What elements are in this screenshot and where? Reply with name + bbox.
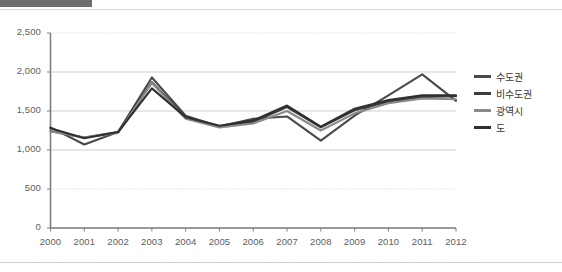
- x-tick-label: 2003: [135, 236, 169, 247]
- legend-label: 수도권: [496, 69, 523, 84]
- legend-label: 광역시: [496, 103, 523, 118]
- gridlines: [51, 33, 457, 228]
- axis-ticks: [47, 33, 456, 232]
- legend-color-swatch: [474, 75, 491, 78]
- legend-color-swatch: [474, 109, 491, 112]
- y-tick-label: 2,500: [1, 26, 41, 37]
- chart-page: 05001,0001,5002,0002,500 200020012002200…: [0, 0, 562, 272]
- x-tick-label: 2009: [338, 236, 372, 247]
- legend-item[interactable]: 광역시: [474, 102, 560, 118]
- x-tick-label: 2002: [101, 236, 135, 247]
- y-tick-label: 1,000: [1, 143, 41, 154]
- legend-item[interactable]: 비수도권: [474, 85, 560, 101]
- axis-lines: [51, 33, 457, 228]
- legend-item[interactable]: 도: [474, 119, 560, 135]
- x-tick-label: 2008: [304, 236, 338, 247]
- data-series-group: [51, 74, 457, 144]
- x-tick-label: 2010: [371, 236, 405, 247]
- x-tick-label: 2005: [202, 236, 236, 247]
- y-tick-label: 2,000: [1, 65, 41, 76]
- x-tick-label: 2006: [236, 236, 270, 247]
- y-tick-label: 0: [1, 221, 41, 232]
- bottom-divider: [0, 262, 562, 263]
- y-tick-label: 500: [1, 182, 41, 193]
- x-tick-label: 2012: [439, 236, 473, 247]
- line-chart: 05001,0001,5002,0002,500 200020012002200…: [0, 10, 562, 262]
- legend-color-swatch: [474, 92, 491, 95]
- legend-item[interactable]: 수도권: [474, 68, 560, 84]
- legend-label: 비수도권: [496, 86, 532, 101]
- legend-label: 도: [496, 120, 505, 135]
- x-tick-label: 2001: [67, 236, 101, 247]
- x-tick-label: 2007: [270, 236, 304, 247]
- legend-color-swatch: [474, 126, 491, 129]
- x-tick-label: 2000: [34, 236, 68, 247]
- chart-canvas: [0, 10, 562, 262]
- x-tick-label: 2004: [169, 236, 203, 247]
- x-tick-label: 2011: [405, 236, 439, 247]
- top-header-strip: [0, 0, 92, 7]
- y-tick-label: 1,500: [1, 104, 41, 115]
- series-line: [51, 88, 457, 138]
- chart-legend: 수도권비수도권광역시도: [474, 68, 560, 136]
